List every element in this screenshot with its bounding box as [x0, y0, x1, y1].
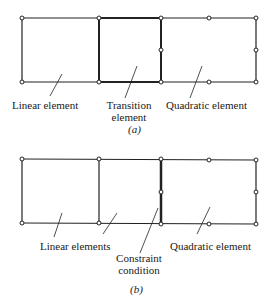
- label-constraint-line2: condition: [111, 264, 167, 276]
- label-transition-line2: element: [104, 111, 154, 123]
- figure-b-nodes: [20, 157, 258, 226]
- label-quadratic-element-a: Quadratic element: [166, 99, 247, 111]
- figure-b-mesh: [22, 159, 256, 253]
- figure-a-mesh: [22, 18, 256, 98]
- caption-a: (a): [128, 123, 141, 135]
- label-constraint-condition: Constraint condition: [111, 252, 167, 276]
- label-transition-line1: Transition: [104, 99, 154, 111]
- label-linear-element: Linear element: [12, 99, 78, 111]
- label-linear-elements: Linear elements: [40, 240, 111, 252]
- caption-b: (b): [130, 283, 143, 295]
- label-constraint-line1: Constraint: [111, 252, 167, 264]
- figure-a-nodes: [20, 16, 258, 84]
- label-transition-element: Transition element: [104, 99, 154, 123]
- label-quadratic-element-b: Quadratic element: [170, 240, 251, 252]
